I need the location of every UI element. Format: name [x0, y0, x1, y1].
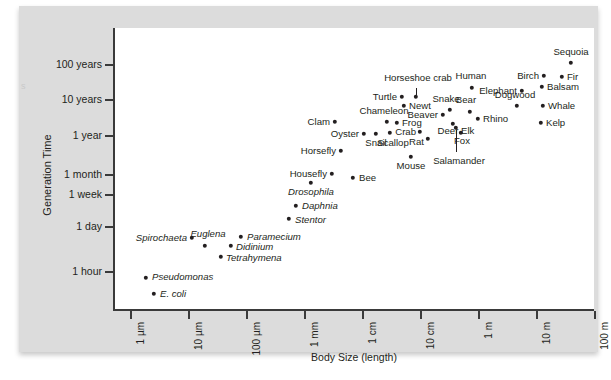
data-point-label: Chameleon: [359, 106, 408, 116]
data-point-label: Dogwood: [495, 90, 536, 100]
y-axis-title: Generation Time: [41, 95, 53, 255]
data-point-label: Whale: [548, 101, 575, 111]
data-point-label: Housefly: [290, 169, 327, 179]
data-point-label: Beaver: [408, 110, 438, 120]
y-axis-tick: [105, 194, 114, 196]
x-axis-tick: [478, 311, 480, 319]
data-point-label: Mouse: [397, 161, 426, 171]
y-axis-tick-label: 1 month: [64, 168, 102, 180]
y-axis-tick: [105, 174, 114, 176]
data-point-label: Birch: [517, 71, 539, 81]
x-axis-tick: [594, 311, 596, 319]
data-point-label: Rhino: [483, 114, 508, 124]
x-axis-title: Body Size (length): [114, 351, 594, 363]
x-axis-tick: [130, 311, 132, 319]
data-point-label: Kelp: [546, 118, 565, 128]
data-point-label: Drosophila: [288, 187, 334, 197]
data-point-label: Salamander: [433, 156, 485, 166]
x-axis-tick-label: 1 µm: [135, 322, 146, 344]
y-axis-tick: [105, 64, 114, 66]
data-point-label: Tetrahymena: [226, 253, 282, 263]
data-point-label: Sequoia: [553, 47, 588, 57]
data-point-label: Horseshoe crab: [384, 73, 452, 83]
label-leader-line: [456, 130, 457, 152]
y-axis-line: [113, 28, 115, 310]
data-point-label: Rat: [409, 137, 424, 147]
data-point-label: Didinium: [236, 242, 273, 252]
y-axis-tick: [105, 271, 114, 273]
x-axis-tick-label: 10 µm: [193, 322, 204, 350]
y-axis-tick: [105, 226, 114, 228]
x-axis-tick-label: 1 mm: [309, 322, 320, 347]
x-axis-tick: [304, 311, 306, 319]
x-axis-line: [113, 309, 594, 311]
data-point-label: Horsefly: [301, 146, 336, 156]
data-point-label: Daphnia: [302, 201, 338, 211]
x-axis-tick: [362, 311, 364, 319]
data-point-label: Spirochaeta: [136, 233, 187, 243]
x-axis-tick: [246, 311, 248, 319]
y-axis-tick-label: 100 years: [56, 58, 102, 70]
data-point-label: Stentor: [295, 215, 326, 225]
data-point-label: Bear: [456, 95, 476, 105]
figure-panel: s 100 years10 years1 year1 month1 week1 …: [19, 6, 598, 352]
x-axis-tick-label: 10 m: [541, 322, 552, 344]
x-axis-tick-label: 10 cm: [425, 322, 436, 349]
data-point-label: Bee: [359, 173, 376, 183]
x-axis-tick-label: 100 m: [599, 322, 610, 350]
y-axis-tick-labels: 100 years10 years1 year1 month1 week1 da…: [19, 6, 102, 380]
y-axis-tick-label: 1 year: [73, 129, 102, 141]
data-point-label: Fir: [567, 72, 578, 82]
y-axis-tick-label: 1 day: [76, 220, 102, 232]
data-point-label: Euglena: [190, 229, 225, 239]
data-point-label: Balsam: [547, 82, 579, 92]
y-axis-tick-label: 1 hour: [72, 265, 102, 277]
y-axis-tick-label: 1 week: [69, 188, 102, 200]
x-axis-tick-label: 1 cm: [367, 322, 378, 344]
data-point-label: Human: [456, 71, 487, 81]
data-point-label: Scallop: [377, 138, 408, 148]
x-axis-tick: [536, 311, 538, 319]
y-axis-tick-label: 10 years: [62, 93, 102, 105]
data-point-label: Turtle: [373, 92, 397, 102]
x-axis-tick: [188, 311, 190, 319]
data-point-label: Pseudomonas: [152, 272, 213, 282]
y-axis-tick: [105, 135, 114, 137]
data-point-label: E. coli: [160, 289, 186, 299]
data-point-label: Oyster: [331, 129, 359, 139]
y-axis-tick: [105, 99, 114, 101]
x-axis-tick-label: 1 m: [483, 322, 494, 339]
data-point-label: Clam: [308, 117, 330, 127]
x-axis-tick: [420, 311, 422, 319]
